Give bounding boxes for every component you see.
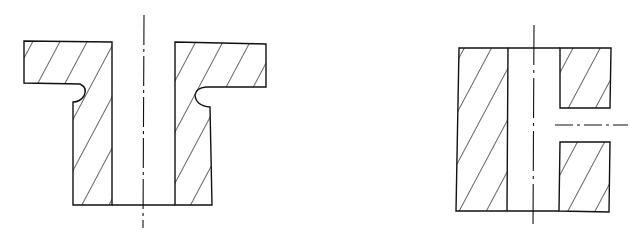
left-wall-section <box>24 41 112 205</box>
center-axis-line <box>143 15 144 228</box>
right-wall-upper-section <box>560 48 611 108</box>
center-axis-line <box>533 25 534 229</box>
right-wall-section <box>175 42 266 205</box>
drawing-canvas <box>0 0 640 238</box>
flanged-bushing-view <box>24 15 266 228</box>
right-wall-lower-section <box>559 142 610 212</box>
sleeve-view <box>456 25 628 229</box>
left-wall-section <box>456 48 508 211</box>
